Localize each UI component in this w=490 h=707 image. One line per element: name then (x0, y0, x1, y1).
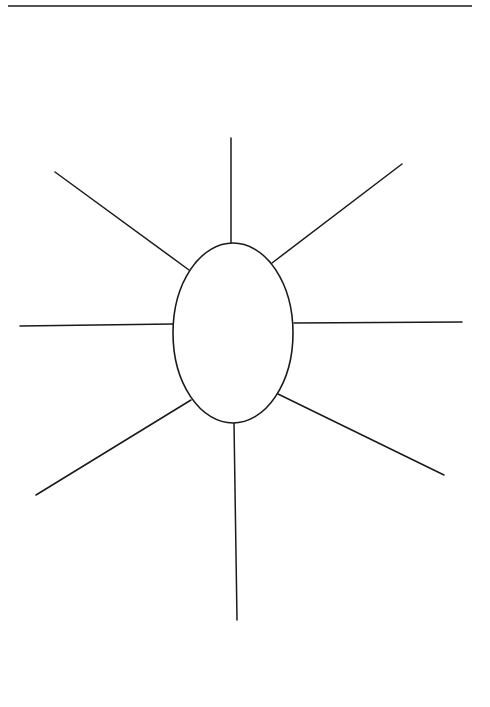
center-ellipse[interactable] (173, 243, 293, 423)
spoke-bottom[interactable] (234, 423, 237, 620)
spoke-left[interactable] (20, 324, 173, 326)
spoke-lower-right[interactable] (278, 394, 444, 475)
spoke-lower-left[interactable] (36, 400, 191, 495)
spoke-upper-right[interactable] (272, 164, 402, 263)
spider-map-page (0, 0, 490, 707)
spider-map-diagram (0, 0, 490, 707)
spoke-right[interactable] (294, 322, 462, 323)
spoke-upper-left[interactable] (55, 172, 189, 270)
